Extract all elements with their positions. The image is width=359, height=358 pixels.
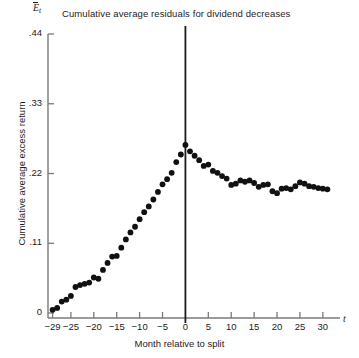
y-axis-tick-label: .11 (16, 236, 42, 247)
data-point (196, 157, 202, 163)
data-point (132, 224, 138, 230)
data-point (205, 162, 211, 168)
data-point (146, 204, 152, 210)
data-point (292, 183, 298, 189)
data-point (183, 142, 189, 148)
data-point (265, 181, 271, 187)
data-point (141, 209, 147, 215)
plot-area (0, 0, 359, 358)
data-point (224, 176, 230, 182)
data-point (86, 280, 92, 286)
data-point (118, 245, 124, 251)
data-point (169, 170, 175, 176)
data-point (274, 190, 280, 196)
y-axis-tick-label: .44 (16, 27, 42, 38)
data-point (251, 180, 257, 186)
y-axis-tick-label: .22 (16, 167, 42, 178)
data-point (155, 189, 161, 195)
data-point (95, 276, 101, 282)
data-point (187, 148, 193, 154)
x-axis-tick-label: 30 (308, 321, 338, 332)
data-point (137, 216, 143, 222)
data-point (123, 237, 129, 243)
data-point (325, 186, 331, 192)
data-point (114, 253, 120, 259)
data-point (54, 305, 60, 311)
data-point (105, 260, 111, 266)
y-axis-tick-label: .33 (16, 97, 42, 108)
data-point (164, 176, 170, 182)
data-point (173, 159, 179, 165)
data-point (160, 181, 166, 187)
data-point (128, 230, 134, 236)
data-series (50, 142, 331, 313)
y-axis-tick-label: 0 (16, 306, 42, 317)
data-point (63, 297, 69, 303)
data-point (150, 197, 156, 203)
data-point (100, 267, 106, 273)
data-point (68, 293, 74, 299)
data-point (192, 153, 198, 159)
chart-figure: Et Cumulative average residuals for divi… (0, 0, 359, 358)
data-point (178, 152, 184, 158)
